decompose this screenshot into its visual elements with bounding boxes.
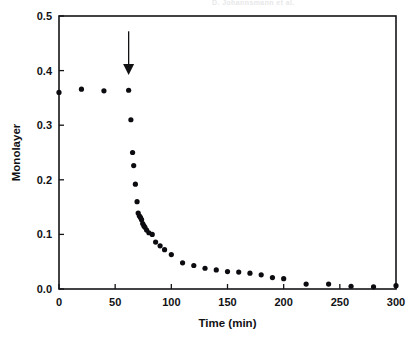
data-point — [101, 88, 106, 93]
x-tick-label: 300 — [387, 296, 405, 308]
data-point — [214, 267, 219, 272]
x-tick-label: 200 — [274, 296, 292, 308]
y-axis: 0.00.10.20.30.40.5 — [37, 10, 64, 295]
data-point — [191, 263, 196, 268]
data-point — [326, 281, 331, 286]
y-tick-label: 0.2 — [37, 174, 52, 186]
x-tick-label: 150 — [218, 296, 236, 308]
data-point — [393, 283, 398, 288]
x-axis-title: Time (min) — [199, 317, 257, 329]
data-point — [79, 87, 84, 92]
y-axis-title: Monolayer — [10, 123, 22, 181]
data-point — [247, 271, 252, 276]
data-point — [348, 284, 353, 289]
y-tick-label: 0.3 — [37, 119, 52, 131]
data-point — [150, 232, 155, 237]
data-point — [202, 266, 207, 271]
data-point — [134, 199, 139, 204]
data-point — [56, 90, 61, 95]
arrow-head — [123, 64, 134, 75]
plot-frame — [59, 16, 396, 289]
data-point — [169, 252, 174, 257]
x-tick-label: 50 — [109, 296, 121, 308]
data-point — [259, 272, 264, 277]
data-point — [371, 284, 376, 289]
chart-figure: 0.00.10.20.30.40.5050100150200250300Time… — [0, 0, 414, 344]
x-tick-label: 0 — [56, 296, 62, 308]
data-point — [158, 243, 163, 248]
y-tick-label: 0.4 — [37, 65, 53, 77]
data-point — [270, 275, 275, 280]
data-point — [225, 269, 230, 274]
data-point — [128, 117, 133, 122]
data-point — [133, 182, 138, 187]
data-point — [180, 260, 185, 265]
data-point — [304, 281, 309, 286]
data-point — [126, 88, 131, 93]
injection-arrow — [123, 31, 134, 75]
data-point — [281, 276, 286, 281]
data-point — [130, 150, 135, 155]
data-point — [236, 269, 241, 274]
x-tick-label: 100 — [162, 296, 180, 308]
figure-root: D. Johannsmann et al. 0.00.10.20.30.40.5… — [0, 0, 414, 344]
chart-canvas: 0.00.10.20.30.40.5050100150200250300Time… — [0, 0, 414, 344]
y-tick-label: 0.1 — [37, 228, 52, 240]
data-point — [162, 247, 167, 252]
x-tick-label: 250 — [331, 296, 349, 308]
data-point — [131, 163, 136, 168]
y-tick-label: 0.5 — [37, 10, 52, 22]
data-point — [153, 239, 158, 244]
data-series-0 — [56, 87, 398, 290]
y-tick-label: 0.0 — [37, 283, 52, 295]
